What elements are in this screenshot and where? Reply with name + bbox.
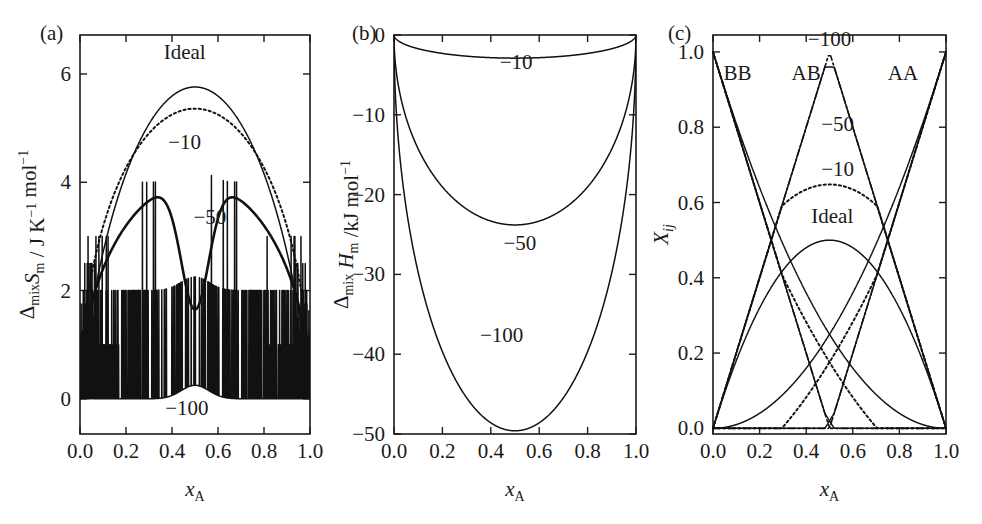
curve-label-a-2: −50 <box>194 205 227 229</box>
x-tick-label-a-2: 0.4 <box>159 439 186 463</box>
curve-label-c-5: −10 <box>821 157 854 181</box>
x-tick-label-c-3: 0.6 <box>840 439 866 463</box>
curve-label-b-2: −100 <box>480 323 523 347</box>
y-axis-title-a-part-0: Δ <box>15 306 39 320</box>
y-axis-title-b-part-1: mix <box>341 274 356 296</box>
x-tick-label-a-5: 1.0 <box>297 439 323 463</box>
y-axis-title-a-part-4: / J K <box>25 218 49 263</box>
y-axis-title-a-part-5: −1 <box>24 203 39 218</box>
x-tick-label-c-2: 0.4 <box>793 439 820 463</box>
x-tick-label-c-4: 0.8 <box>886 439 912 463</box>
panel-label-c: (c) <box>668 21 691 45</box>
y-axis-title-c-part-0: X <box>649 231 673 246</box>
y-tick-label-a-1: 2 <box>61 279 72 303</box>
y-axis-title-c-part-1: ij <box>661 224 676 232</box>
y-tick-label-c-0: 0.0 <box>678 416 704 440</box>
curve-label-b-1: −50 <box>503 231 536 255</box>
x-tick-label-b-3: 0.6 <box>526 439 552 463</box>
x-tick-label-a-3: 0.6 <box>205 439 231 463</box>
y-tick-label-a-0: 0 <box>61 387 72 411</box>
x-tick-label-b-4: 0.8 <box>574 439 600 463</box>
x-tick-label-b-2: 0.4 <box>478 439 505 463</box>
curve-label-c-0: BB <box>723 61 751 85</box>
y-axis-title-b-part-0: Δ <box>329 296 353 310</box>
y-axis-title-a-part-7: −1 <box>16 150 31 165</box>
y-tick-label-b-1: −10 <box>352 103 385 127</box>
y-tick-label-b-4: −40 <box>352 342 385 366</box>
x-tick-label-a-4: 0.8 <box>251 439 277 463</box>
y-axis-title-a: ΔmixSm / J K−1 mol−1 <box>15 150 49 319</box>
y-axis-title-b: Δmix Hm /kJ mol−1 <box>329 160 363 309</box>
x-tick-label-b-5: 1.0 <box>623 439 649 463</box>
y-axis-title-a-part-3: m <box>32 262 47 273</box>
y-tick-label-a-3: 6 <box>61 62 72 86</box>
curve-label-c-2: AA <box>888 61 919 85</box>
curve-label-a-3: −100 <box>165 396 208 420</box>
figure-canvas: 0.00.20.40.60.81.00246(a)Ideal−10−50−100… <box>0 0 982 524</box>
curves-panel-c <box>713 52 946 428</box>
y-tick-label-a-2: 4 <box>61 170 72 194</box>
y-axis-title-a-part-6: mol <box>17 165 41 203</box>
figure-root: 0.00.20.40.60.81.00246(a)Ideal−10−50−100… <box>0 0 982 524</box>
x-tick-label-c-1: 0.2 <box>746 439 772 463</box>
x-tick-label-a-0: 0.0 <box>67 439 93 463</box>
y-tick-label-c-2: 0.4 <box>678 266 705 290</box>
curve-label-c-4: −50 <box>821 112 854 136</box>
x-tick-label-a-1: 0.2 <box>113 439 139 463</box>
figure-caption <box>0 494 982 524</box>
y-axis-title-a-part-2: S <box>20 273 44 284</box>
curve-label-c-1: AB <box>792 61 821 85</box>
y-axis-title-b-part-5: −1 <box>338 160 353 175</box>
y-axis-title-a-part-1: mix <box>27 284 42 306</box>
y-axis-title-b-part-4: /kJ mol <box>339 175 363 243</box>
x-tick-label-c-5: 1.0 <box>933 439 959 463</box>
y-tick-label-b-5: −50 <box>352 422 385 446</box>
x-tick-label-c-0: 0.0 <box>700 439 726 463</box>
y-tick-label-c-4: 0.8 <box>678 115 704 139</box>
plot-frame-c <box>713 35 946 434</box>
curve-label-a-1: −10 <box>168 130 201 154</box>
curve-label-c-6: Ideal <box>811 204 853 228</box>
curve-label-c-3: −100 <box>808 27 851 51</box>
y-axis-title-b-part-2: H <box>334 252 358 274</box>
curve-label-b-0: −10 <box>500 50 533 74</box>
y-axis-title-c: Xij <box>649 224 676 246</box>
curve-label-a-0: Ideal <box>164 40 206 64</box>
y-tick-label-c-1: 0.2 <box>678 341 704 365</box>
panel-label-b: (b) <box>352 21 377 45</box>
y-axis-title-b-part-3: m <box>346 242 361 253</box>
y-tick-label-c-3: 0.6 <box>678 191 704 215</box>
panel-label-a: (a) <box>40 21 63 45</box>
x-tick-label-b-1: 0.2 <box>429 439 455 463</box>
